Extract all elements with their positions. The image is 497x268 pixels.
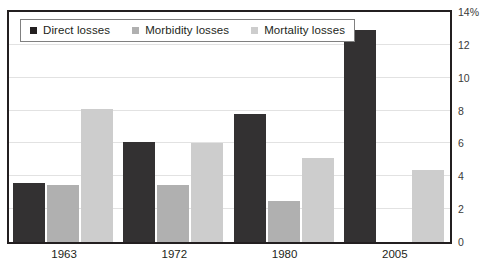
x-axis-tick-1980: 1980 bbox=[272, 248, 298, 260]
bar-group-1972 bbox=[119, 12, 229, 242]
bar-direct-2005 bbox=[344, 30, 376, 242]
bar-group-1963 bbox=[9, 12, 119, 242]
y-axis-tick-14: 14% bbox=[458, 6, 479, 18]
legend-label: Mortality losses bbox=[264, 24, 345, 36]
y-axis-labels: 02468101214% bbox=[458, 0, 497, 268]
plot-inner bbox=[9, 12, 450, 242]
bar-morbidity-1963 bbox=[47, 185, 79, 243]
chart-legend: Direct lossesMorbidity lossesMortality l… bbox=[20, 19, 355, 42]
bar-group-1980 bbox=[230, 12, 340, 242]
bar-chart: Direct lossesMorbidity lossesMortality l… bbox=[0, 0, 497, 268]
legend-swatch-direct-icon bbox=[30, 27, 37, 34]
y-axis-tick-4: 4 bbox=[458, 170, 464, 182]
y-axis-tick-0: 0 bbox=[458, 236, 464, 248]
legend-item-mortality[interactable]: Mortality losses bbox=[251, 24, 345, 36]
legend-item-direct[interactable]: Direct losses bbox=[30, 24, 110, 36]
bar-group-2005 bbox=[340, 12, 450, 242]
bar-mortality-1980 bbox=[302, 158, 334, 242]
legend-label: Morbidity losses bbox=[145, 24, 229, 36]
x-axis-tick-2005: 2005 bbox=[382, 248, 408, 260]
y-axis-tick-10: 10 bbox=[458, 72, 470, 84]
x-axis-tick-1963: 1963 bbox=[51, 248, 77, 260]
legend-label: Direct losses bbox=[43, 24, 110, 36]
plot-area bbox=[7, 10, 452, 244]
bar-direct-1972 bbox=[123, 142, 155, 242]
x-axis-tick-1972: 1972 bbox=[162, 248, 188, 260]
legend-swatch-morbidity-icon bbox=[132, 27, 139, 34]
bar-morbidity-1972 bbox=[157, 185, 189, 243]
legend-item-morbidity[interactable]: Morbidity losses bbox=[132, 24, 229, 36]
bar-mortality-1963 bbox=[81, 109, 113, 242]
legend-swatch-mortality-icon bbox=[251, 27, 258, 34]
y-axis-tick-8: 8 bbox=[458, 105, 464, 117]
bar-morbidity-1980 bbox=[268, 201, 300, 242]
bar-direct-1980 bbox=[234, 114, 266, 242]
bars-layer bbox=[9, 12, 450, 242]
y-axis-tick-6: 6 bbox=[458, 137, 464, 149]
bar-mortality-1972 bbox=[191, 143, 223, 242]
x-axis-labels: 1963197219802005 bbox=[7, 246, 452, 268]
y-axis-tick-2: 2 bbox=[458, 203, 464, 215]
y-axis-tick-12: 12 bbox=[458, 39, 470, 51]
bar-mortality-2005 bbox=[412, 170, 444, 242]
bar-direct-1963 bbox=[13, 183, 45, 242]
